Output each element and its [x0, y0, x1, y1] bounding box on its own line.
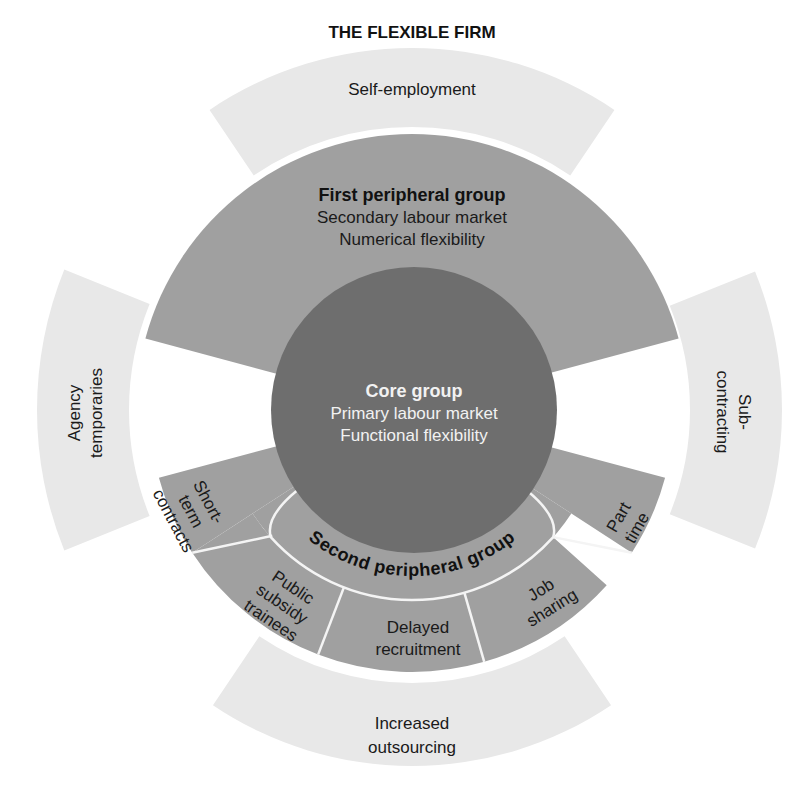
first-peripheral-title: First peripheral group — [318, 185, 505, 205]
first-peripheral-line2: Numerical flexibility — [339, 230, 485, 249]
outer-band-sub-contracting: Sub- contracting — [670, 271, 782, 548]
core-group: Core group Primary labour market Functio… — [271, 267, 557, 553]
band-right-label-line2: contracting — [713, 370, 732, 453]
first-peripheral-line1: Secondary labour market — [317, 208, 507, 227]
band-top-label: Self-employment — [348, 80, 476, 99]
band-bottom-label-line2: outsourcing — [368, 738, 456, 757]
outer-band-agency-temporaries: Agency temporaries — [37, 270, 150, 551]
band-bottom-label-line1: Increased — [375, 714, 450, 733]
core-title: Core group — [366, 381, 463, 401]
segment-label-line: recruitment — [375, 640, 460, 659]
core-line1: Primary labour market — [330, 404, 497, 423]
band-left-label-line1: Agency — [65, 384, 84, 441]
core-line2: Functional flexibility — [340, 426, 488, 445]
band-left-label-line2: temporaries — [87, 368, 106, 458]
segment-label-line: Delayed — [387, 618, 449, 637]
diagram-title: THE FLEXIBLE FIRM — [328, 23, 495, 42]
flexible-firm-diagram: THE FLEXIBLE FIRM Self-employment Agency… — [0, 0, 811, 791]
band-right-label-line1: Sub- — [735, 394, 754, 430]
